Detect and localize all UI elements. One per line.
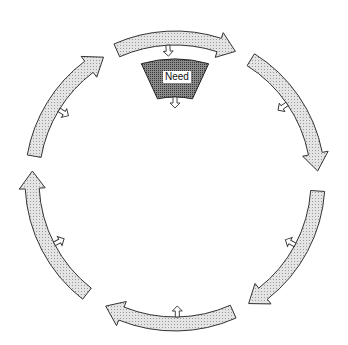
need-label: Need — [163, 71, 191, 83]
need-node — [141, 59, 208, 108]
need-down-arrow-icon — [170, 97, 180, 108]
cycle-diagram — [0, 0, 348, 345]
arc-upper-right-arrow — [247, 54, 328, 171]
arc-upper-left-arrow — [27, 56, 103, 157]
arc-top-arrow — [114, 31, 235, 57]
arc-lower-left-arrow — [19, 171, 91, 299]
arc-bottom-arrow — [106, 302, 236, 331]
arc-lower-right-arrow — [249, 190, 325, 303]
arc-bottom-inner-arrow-icon — [172, 306, 182, 317]
arc-top-inner-arrow-icon — [163, 45, 174, 57]
